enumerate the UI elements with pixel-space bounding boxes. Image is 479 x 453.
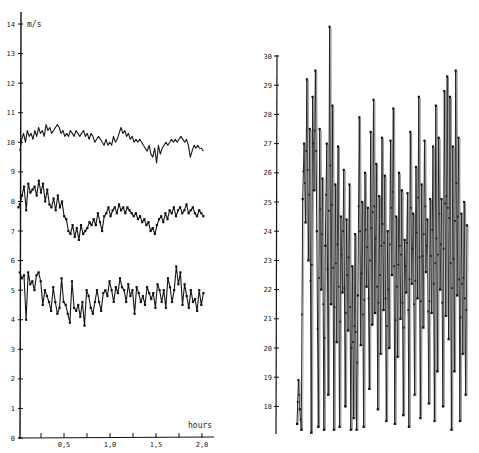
y-tick-label: 20 bbox=[264, 345, 272, 353]
data-point bbox=[327, 268, 329, 270]
data-point bbox=[395, 216, 397, 218]
data-point bbox=[387, 230, 389, 232]
data-point bbox=[141, 221, 143, 223]
data-point bbox=[353, 417, 355, 419]
data-point bbox=[99, 221, 101, 223]
data-point bbox=[138, 292, 140, 294]
y-tick-label: 6 bbox=[11, 257, 15, 265]
data-point bbox=[129, 295, 131, 297]
y-tick-label: 21 bbox=[264, 315, 272, 323]
y-tick-label: 22 bbox=[264, 286, 272, 294]
data-point bbox=[146, 286, 148, 288]
data-point bbox=[448, 217, 450, 219]
data-point bbox=[331, 105, 333, 107]
data-point bbox=[463, 277, 465, 279]
data-point bbox=[74, 236, 76, 238]
data-point bbox=[383, 242, 385, 244]
right-series-lines bbox=[296, 26, 468, 434]
data-point bbox=[389, 140, 391, 142]
data-point bbox=[370, 131, 372, 133]
data-point bbox=[23, 274, 25, 276]
data-point bbox=[341, 291, 343, 293]
data-point bbox=[451, 287, 453, 289]
data-point bbox=[56, 313, 58, 315]
data-point bbox=[304, 221, 306, 223]
data-point bbox=[200, 212, 202, 214]
data-point bbox=[17, 206, 19, 208]
data-point bbox=[348, 257, 350, 259]
data-point bbox=[196, 310, 198, 312]
data-point bbox=[31, 280, 33, 282]
data-point bbox=[464, 297, 466, 299]
data-point bbox=[378, 195, 380, 197]
data-point bbox=[385, 297, 387, 299]
data-point bbox=[154, 307, 156, 309]
data-point bbox=[325, 194, 327, 196]
data-point bbox=[356, 362, 358, 364]
data-point bbox=[377, 408, 379, 410]
data-point bbox=[125, 301, 127, 303]
data-point bbox=[413, 303, 415, 305]
data-point bbox=[317, 328, 319, 330]
data-point bbox=[363, 299, 365, 301]
data-point bbox=[329, 165, 331, 167]
data-point bbox=[96, 289, 98, 291]
data-point bbox=[60, 277, 62, 279]
data-point bbox=[85, 289, 87, 291]
data-point bbox=[406, 192, 408, 194]
data-point bbox=[345, 218, 347, 220]
data-point bbox=[438, 137, 440, 139]
data-point bbox=[320, 289, 322, 291]
data-point bbox=[108, 280, 110, 282]
data-point bbox=[358, 116, 360, 118]
data-point bbox=[418, 96, 420, 98]
data-point bbox=[388, 347, 390, 349]
data-point bbox=[69, 233, 71, 235]
data-point bbox=[403, 327, 405, 329]
y-tick-label: 24 bbox=[264, 228, 272, 236]
data-point bbox=[202, 292, 204, 294]
data-point bbox=[331, 204, 333, 206]
data-point bbox=[397, 264, 399, 266]
y-tick-label: 23 bbox=[264, 257, 272, 265]
left-series-lines bbox=[17, 125, 204, 327]
data-point bbox=[338, 286, 340, 288]
data-point bbox=[123, 289, 125, 291]
y-tick-label: 28 bbox=[264, 111, 272, 119]
data-point bbox=[34, 186, 36, 188]
data-point bbox=[409, 131, 411, 133]
y-tick-label: 9 bbox=[11, 168, 15, 176]
data-point bbox=[171, 212, 173, 214]
data-point bbox=[315, 150, 317, 152]
data-point bbox=[25, 319, 27, 321]
data-point bbox=[344, 287, 346, 289]
data-point bbox=[443, 90, 445, 92]
data-point bbox=[166, 218, 168, 220]
data-point bbox=[368, 388, 370, 390]
data-point bbox=[42, 304, 44, 306]
y-tick-label: 29 bbox=[264, 82, 272, 90]
data-point bbox=[375, 238, 377, 240]
data-point bbox=[458, 278, 460, 280]
data-point bbox=[438, 213, 440, 215]
data-point bbox=[131, 289, 133, 291]
data-point bbox=[177, 283, 179, 285]
data-point bbox=[333, 429, 335, 431]
data-point bbox=[421, 183, 423, 185]
data-point bbox=[75, 310, 77, 312]
data-point bbox=[391, 274, 393, 276]
data-point bbox=[304, 182, 306, 184]
y-tick-label: 30 bbox=[264, 53, 272, 61]
data-point bbox=[379, 274, 381, 276]
data-point bbox=[152, 227, 154, 229]
data-point bbox=[362, 426, 364, 428]
data-point bbox=[409, 278, 411, 280]
data-point bbox=[302, 198, 304, 200]
data-point bbox=[102, 292, 104, 294]
data-point bbox=[297, 401, 299, 403]
y-tick-label: 8 bbox=[11, 198, 15, 206]
data-point bbox=[382, 309, 384, 311]
y-tick-label: 0 bbox=[11, 435, 15, 443]
data-point bbox=[389, 243, 391, 245]
data-point bbox=[186, 295, 188, 297]
